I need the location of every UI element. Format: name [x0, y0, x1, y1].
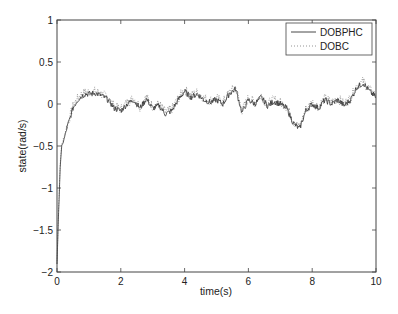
axes-frame — [57, 20, 376, 272]
legend-label-dobphc: DOBPHC — [320, 27, 363, 38]
y-tick-label: 0.5 — [39, 57, 53, 68]
y-tick-label: −1 — [42, 183, 54, 194]
plot-area — [57, 77, 376, 264]
y-tick-label: 0 — [47, 99, 53, 110]
y-axis-label: state(rad/s) — [16, 119, 28, 172]
y-tick-label: −1.5 — [33, 225, 53, 236]
legend-label-dobc: DOBC — [320, 41, 349, 52]
series-line-dobc — [57, 77, 376, 263]
x-tick-label: 4 — [182, 276, 188, 287]
x-tick-label: 2 — [118, 276, 124, 287]
x-tick-label: 10 — [370, 276, 382, 287]
x-tick-label: 0 — [54, 276, 60, 287]
x-tick-label: 8 — [309, 276, 315, 287]
series-line-dobphc — [57, 83, 376, 264]
y-tick-label: −0.5 — [33, 141, 53, 152]
y-tick-label: 1 — [47, 15, 53, 26]
legend: DOBPHC DOBC — [286, 23, 372, 55]
x-axis-label: time(s) — [200, 285, 232, 297]
y-tick-label: −2 — [42, 267, 54, 278]
line-chart: 024681010.50−0.5−1−1.5−2 DOBPHC DOBC tim… — [0, 0, 398, 314]
x-tick-label: 6 — [246, 276, 252, 287]
